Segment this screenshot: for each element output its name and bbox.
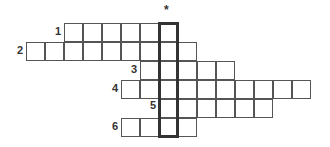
crossword-cell[interactable] <box>64 23 83 42</box>
crossword-cell[interactable] <box>178 118 197 137</box>
clue-number-3: 3 <box>131 63 137 75</box>
crossword-cell[interactable] <box>102 42 121 61</box>
crossword-cell[interactable] <box>178 80 197 99</box>
clue-number-6: 6 <box>112 120 118 132</box>
crossword-cell[interactable] <box>140 80 159 99</box>
clue-number-5: 5 <box>150 99 156 111</box>
crossword-cell[interactable] <box>64 42 83 61</box>
crossword-cell[interactable] <box>121 80 140 99</box>
clue-number-1: 1 <box>55 25 61 37</box>
clue-number-4: 4 <box>112 82 118 94</box>
crossword-cell[interactable] <box>140 42 159 61</box>
crossword-cell[interactable] <box>216 61 235 80</box>
crossword-cell[interactable] <box>216 80 235 99</box>
crossword-cell[interactable] <box>121 118 140 137</box>
crossword-cell[interactable] <box>121 23 140 42</box>
crossword-cell[interactable] <box>235 99 254 118</box>
crossword-cell[interactable] <box>216 99 235 118</box>
crossword-cell[interactable] <box>121 42 140 61</box>
crossword-cell[interactable] <box>83 23 102 42</box>
crossword-cell[interactable] <box>292 80 311 99</box>
crossword-cell[interactable] <box>197 61 216 80</box>
crossword-cell[interactable] <box>197 99 216 118</box>
mystery-column-marker: * <box>164 3 169 17</box>
crossword-cell[interactable] <box>140 61 159 80</box>
crossword-cell[interactable] <box>140 118 159 137</box>
crossword-cell[interactable] <box>178 99 197 118</box>
crossword-cell[interactable] <box>102 23 121 42</box>
mystery-word-column <box>158 22 179 138</box>
crossword-cell[interactable] <box>178 61 197 80</box>
crossword-cell[interactable] <box>83 42 102 61</box>
crossword-cell[interactable] <box>140 23 159 42</box>
clue-number-2: 2 <box>17 44 23 56</box>
crossword-cell[interactable] <box>45 42 64 61</box>
crossword-cell[interactable] <box>273 80 292 99</box>
crossword-cell[interactable] <box>235 80 254 99</box>
crossword-cell[interactable] <box>26 42 45 61</box>
crossword-cell[interactable] <box>178 42 197 61</box>
crossword-cell[interactable] <box>197 80 216 99</box>
crossword-cell[interactable] <box>254 80 273 99</box>
crossword-cell[interactable] <box>254 99 273 118</box>
